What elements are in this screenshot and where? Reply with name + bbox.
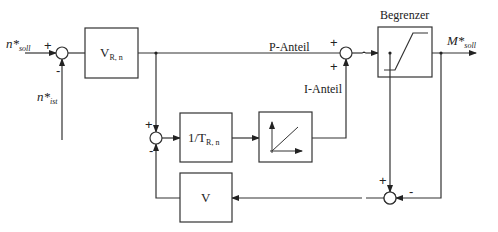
sum3-plus-left-sign: + [330,36,338,49]
block-diagram: n*soll n*ist M*soll VR, n 1/TR, n V Begr… [0,0,498,232]
sum2-minus-sign: - [149,144,153,157]
sum4-plus-sign: + [379,174,387,187]
sum3-plus-bottom-sign: + [330,60,338,73]
gain-block-label: VR, n [100,46,123,62]
input-setpoint-label: n*soll [6,37,31,53]
sum4-minus-sign: - [409,185,413,198]
input-actual-label: n*ist [37,90,58,106]
sum1-minus-sign: - [56,64,60,77]
reset-block-label: 1/TR, n [188,131,219,147]
output-label: M*soll [447,34,476,50]
p-part-label: P-Anteil [269,41,310,53]
sum2-plus-sign: + [145,118,153,131]
sum1-plus-sign: + [44,39,52,52]
i-part-label: I-Anteil [304,83,342,95]
limiter-title: Begrenzer [380,9,429,21]
feedback-gain-label: V [201,191,210,204]
sum4-top-route [0,0,498,232]
